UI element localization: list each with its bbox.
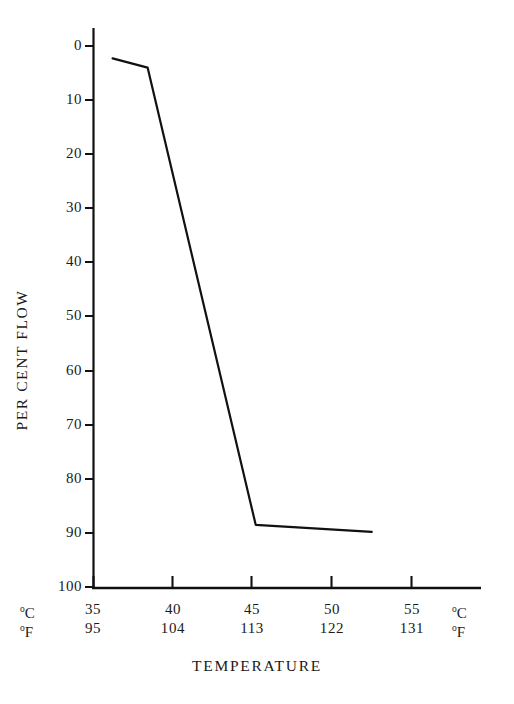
x-axis-celsius-row: oC 35 40 45 50 55 oC	[0, 600, 514, 619]
y-tick-label-80: 80	[36, 471, 82, 486]
y-tick-label-60: 60	[36, 363, 82, 378]
fahrenheit-unit-left-letter: F	[25, 624, 34, 640]
fahrenheit-unit-left: oF	[20, 619, 33, 642]
x-tick-label-f-104: 104	[161, 619, 185, 638]
x-tick-label-f-95: 95	[85, 619, 101, 638]
y-axis-title-wrap: PER CENT FLOW	[8, 225, 36, 495]
y-tick-label-30: 30	[36, 200, 82, 215]
y-axis-title: PER CENT FLOW	[13, 289, 31, 430]
y-axis-tick-labels: 0 10 20 30 40 50 60 70 80 90 100	[30, 0, 82, 704]
x-tick-label-c-40: 40	[165, 600, 181, 619]
x-tick-label-f-113: 113	[240, 619, 264, 638]
y-tick-label-0: 0	[36, 38, 82, 53]
y-tick-label-40: 40	[36, 254, 82, 269]
data-series-line	[113, 58, 372, 531]
y-tick-label-100: 100	[36, 579, 82, 594]
x-tick-label-f-131: 131	[400, 619, 424, 638]
fahrenheit-unit-right: oF	[452, 619, 465, 642]
y-tick-label-10: 10	[36, 92, 82, 107]
y-tick-label-70: 70	[36, 417, 82, 432]
fahrenheit-unit-right-letter: F	[457, 624, 466, 640]
x-tick-label-c-50: 50	[324, 600, 340, 619]
chart-figure: 0 10 20 30 40 50 60 70 80 90 100 PER CEN…	[0, 0, 514, 704]
x-axis-title: TEMPERATURE	[0, 657, 514, 675]
y-tick-label-50: 50	[36, 308, 82, 323]
y-axis-ticks	[85, 46, 93, 587]
y-tick-label-90: 90	[36, 525, 82, 540]
x-tick-label-c-55: 55	[404, 600, 420, 619]
x-tick-label-c-35: 35	[85, 600, 101, 619]
x-tick-label-f-122: 122	[320, 619, 344, 638]
x-axis-fahrenheit-row: oF 95 104 113 122 131 oF	[0, 619, 514, 638]
x-axis-ticks	[94, 576, 412, 588]
x-tick-label-c-45: 45	[244, 600, 260, 619]
y-tick-label-20: 20	[36, 146, 82, 161]
